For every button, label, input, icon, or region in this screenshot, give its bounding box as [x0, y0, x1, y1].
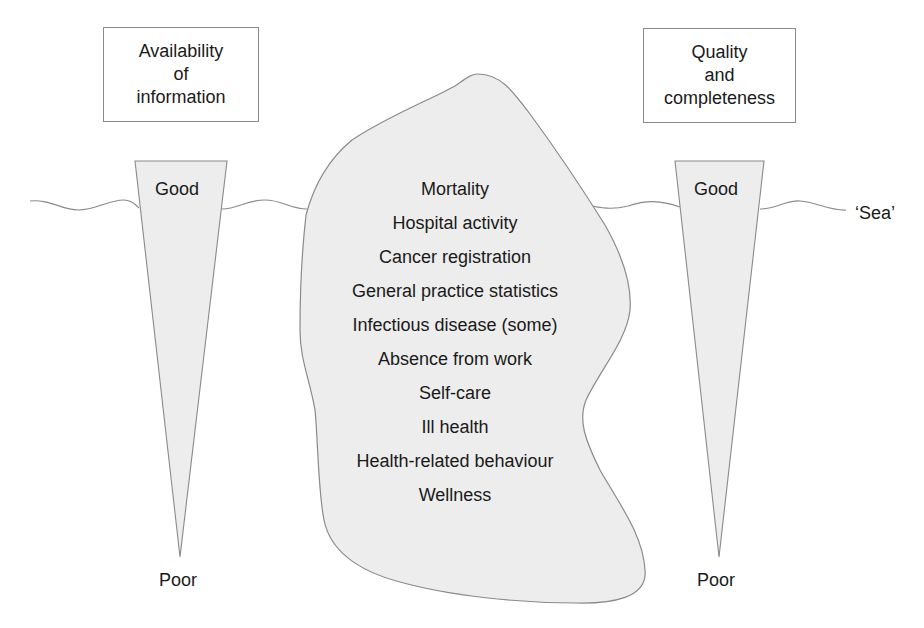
quality-and-completeness-box: Quality and completeness	[643, 28, 796, 123]
box-line: of	[173, 63, 188, 86]
sea-wave-left	[30, 200, 139, 210]
iceberg-item: Absence from work	[305, 346, 605, 380]
right-scale-good-label: Good	[694, 179, 738, 199]
iceberg-item: Self-care	[305, 380, 605, 414]
left-scale-wedge	[135, 161, 227, 557]
sea-label: ‘Sea’	[855, 203, 895, 223]
iceberg-item: Hospital activity	[305, 210, 605, 244]
iceberg-item: Health-related behaviour	[305, 448, 605, 482]
iceberg-item: Ill health	[305, 414, 605, 448]
right-scale-wedge	[675, 161, 764, 557]
box-line: completeness	[664, 87, 775, 110]
availability-of-information-box: Availability of information	[103, 27, 259, 122]
left-scale-poor-label: Poor	[159, 570, 197, 590]
left-scale-good-label: Good	[155, 179, 199, 199]
iceberg-item: General practice statistics	[305, 278, 605, 312]
iceberg-item-list: Mortality Hospital activity Cancer regis…	[305, 176, 605, 516]
box-line: and	[704, 64, 734, 87]
iceberg-item: Cancer registration	[305, 244, 605, 278]
box-line: information	[136, 86, 225, 109]
iceberg-item: Mortality	[305, 176, 605, 210]
sea-wave-middle-left	[222, 200, 307, 209]
box-line: Quality	[691, 41, 747, 64]
iceberg-item: Wellness	[305, 482, 605, 516]
right-scale-poor-label: Poor	[697, 570, 735, 590]
iceberg-item: Infectious disease (some)	[305, 312, 605, 346]
box-line: Availability	[139, 40, 224, 63]
sea-wave-right	[760, 201, 846, 210]
